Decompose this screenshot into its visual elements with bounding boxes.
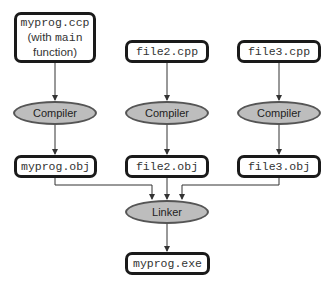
source-file-myprog-ccp: myprog.ccp (with main function) [14, 12, 96, 63]
compiler-node-3: Compiler [237, 101, 321, 125]
source-file-name: file3.cpp [248, 45, 310, 59]
compiler-label: Compiler [145, 107, 189, 119]
compiler-label: Compiler [33, 107, 77, 119]
source-file-name: myprog.ccp [20, 16, 89, 30]
executable-file: myprog.exe [125, 252, 210, 275]
linker-node: Linker [125, 200, 209, 224]
source-file-note-end: function) [33, 45, 77, 59]
compiler-node-2: Compiler [125, 101, 209, 125]
compiler-label: Compiler [257, 107, 301, 119]
executable-name: myprog.exe [133, 257, 202, 271]
source-file-name: file2.cpp [136, 45, 198, 59]
compiler-node-1: Compiler [13, 101, 97, 125]
object-file-name: file2.obj [136, 160, 198, 174]
source-file-file2-cpp: file2.cpp [125, 40, 209, 63]
source-file-note: (with main [27, 30, 82, 45]
note-code: main [55, 31, 83, 44]
source-file-file3-cpp: file3.cpp [237, 40, 321, 63]
note-prefix: (with [27, 31, 54, 43]
object-file-file2-obj: file2.obj [125, 155, 209, 178]
linker-label: Linker [152, 206, 182, 218]
object-file-myprog-obj: myprog.obj [14, 155, 97, 178]
object-file-file3-obj: file3.obj [237, 155, 321, 178]
object-file-name: file3.obj [248, 160, 310, 174]
object-file-name: myprog.obj [21, 160, 90, 174]
